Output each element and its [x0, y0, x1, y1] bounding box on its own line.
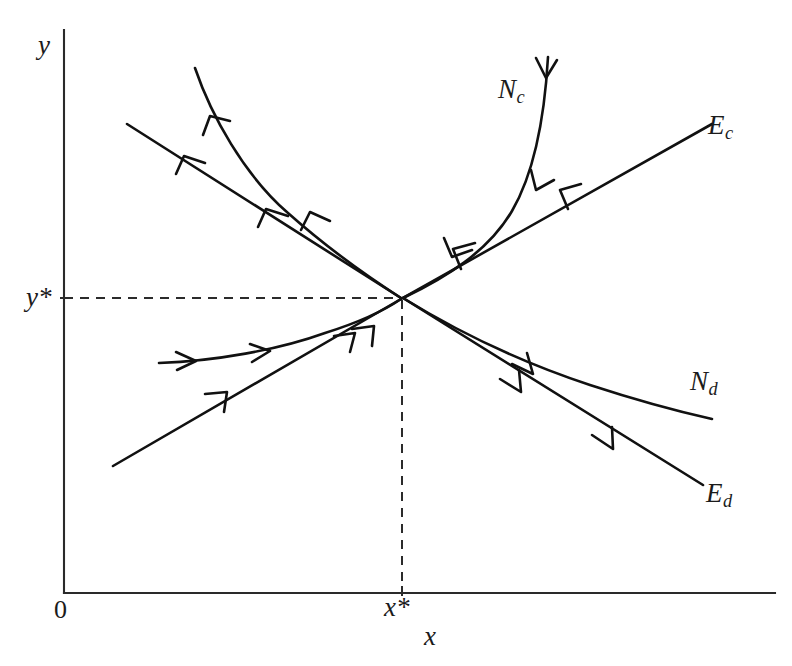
curve-ec-upper-right	[403, 124, 712, 298]
y-star-label: y*	[26, 284, 51, 311]
curve-label-nd-sub: d	[708, 379, 718, 399]
phase-diagram-canvas	[0, 0, 792, 666]
curve-label-nd: Nd	[690, 368, 718, 399]
curve-label-ec-base: E	[708, 110, 725, 140]
ec-upper-right-path	[403, 124, 712, 298]
curve-nc-upper-right	[403, 57, 557, 298]
x-star-label: x*	[384, 594, 409, 621]
y-axis-label: y	[38, 32, 50, 59]
curve-nc-lower-left	[159, 299, 401, 370]
nc-upper-right-arrow-2	[531, 170, 554, 190]
ec-upper-right-arrow-1	[560, 184, 581, 209]
curve-label-ed-sub: d	[723, 491, 733, 511]
curve-label-nc-sub: c	[516, 87, 525, 107]
curve-label-ec: Ec	[708, 112, 733, 143]
ed-lower-right-path	[403, 298, 703, 485]
curve-ec-upper-left	[127, 124, 401, 298]
ed-lower-right-arrow-1	[500, 370, 521, 392]
ed-lower-right-arrow-2	[592, 427, 613, 449]
nc-lower-left-path	[159, 299, 401, 363]
curve-label-nc: Nc	[498, 76, 525, 107]
phase-diagram-figure: y y* 0 x* x Nc Ec Nd Ed	[0, 0, 792, 666]
curve-nc-upper-left	[195, 68, 401, 298]
curve-ed-lower-right	[403, 298, 703, 485]
nc-upper-left-arrow-1	[203, 116, 230, 135]
y-star-text: y*	[26, 282, 51, 312]
ec-lower-left-path	[113, 299, 401, 466]
nc-upper-right-path	[403, 57, 548, 298]
curve-label-ed: Ed	[706, 480, 732, 511]
curve-ec-lower-left	[113, 299, 401, 466]
curve-label-ec-sub: c	[725, 123, 734, 143]
x-axis-label: x	[424, 623, 436, 650]
equilibrium-guides-group	[60, 298, 402, 596]
curve-label-ed-base: E	[706, 478, 723, 508]
curve-label-nc-base: N	[498, 74, 516, 104]
nc-upper-left-path	[195, 68, 401, 298]
x-star-text: x*	[384, 592, 409, 622]
origin-label: 0	[54, 597, 67, 623]
curve-label-nd-base: N	[690, 366, 708, 396]
nd-lower-right-path	[403, 298, 712, 419]
axes-group	[64, 30, 775, 593]
curve-nd-lower-right	[403, 298, 712, 419]
